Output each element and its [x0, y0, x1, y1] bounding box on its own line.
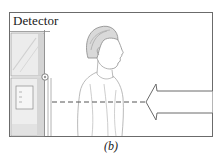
figure-panel-b: Detector (b)	[0, 0, 222, 155]
detector-booth	[10, 30, 51, 136]
figure-caption: (b)	[0, 139, 222, 154]
detector-label: Detector	[13, 13, 59, 29]
